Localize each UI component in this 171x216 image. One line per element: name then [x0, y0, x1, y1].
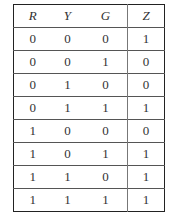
cell-g: 1	[84, 143, 128, 166]
cell-y: 1	[51, 74, 83, 97]
cell-z: 1	[128, 28, 165, 51]
cell-y: 0	[51, 143, 83, 166]
cell-g: 0	[84, 28, 128, 51]
cell-z: 1	[128, 166, 165, 189]
table-row: 1 0 0 0	[14, 120, 165, 143]
header-z: Z	[128, 5, 165, 28]
cell-z: 1	[128, 189, 165, 212]
header-row: R Y G Z	[14, 5, 165, 28]
cell-r: 0	[14, 97, 52, 120]
cell-g: 1	[84, 97, 128, 120]
table-row: 0 0 0 1	[14, 28, 165, 51]
cell-g: 1	[84, 189, 128, 212]
cell-y: 1	[51, 189, 83, 212]
cell-y: 0	[51, 120, 83, 143]
cell-z: 1	[128, 97, 165, 120]
cell-g: 1	[84, 51, 128, 74]
cell-y: 0	[51, 28, 83, 51]
cell-z: 0	[128, 74, 165, 97]
table-row: 1 1 1 1	[14, 189, 165, 212]
table-row: 0 1 0 0	[14, 74, 165, 97]
cell-y: 1	[51, 97, 83, 120]
header-g: G	[84, 5, 128, 28]
cell-r: 1	[14, 166, 52, 189]
header-r: R	[14, 5, 52, 28]
cell-g: 0	[84, 74, 128, 97]
cell-y: 1	[51, 166, 83, 189]
table-row: 0 0 1 0	[14, 51, 165, 74]
cell-r: 0	[14, 74, 52, 97]
table-row: 1 1 0 1	[14, 166, 165, 189]
cell-z: 0	[128, 120, 165, 143]
cell-r: 1	[14, 143, 52, 166]
cell-y: 0	[51, 51, 83, 74]
cell-r: 0	[14, 28, 52, 51]
cell-r: 1	[14, 189, 52, 212]
header-y: Y	[51, 5, 83, 28]
cell-g: 0	[84, 120, 128, 143]
cell-z: 1	[128, 143, 165, 166]
cell-r: 1	[14, 120, 52, 143]
cell-g: 0	[84, 166, 128, 189]
truth-table: R Y G Z 0 0 0 1 0 0 1 0 0 1 0 0 0 1 1 1 …	[13, 4, 165, 212]
cell-z: 0	[128, 51, 165, 74]
table-row: 1 0 1 1	[14, 143, 165, 166]
cell-r: 0	[14, 51, 52, 74]
table-row: 0 1 1 1	[14, 97, 165, 120]
